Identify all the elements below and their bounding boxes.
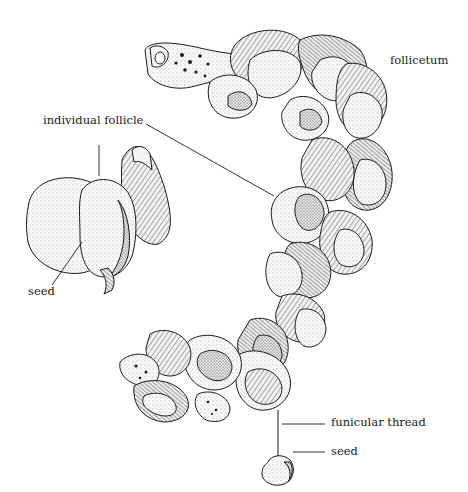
botanical-figure: follicetum individual follicle seed funi… [0, 0, 468, 492]
leader-individual-follicle-right [146, 124, 274, 196]
label-seed-left: seed [28, 286, 55, 298]
label-funicular-thread: funicular thread [331, 417, 426, 429]
label-follicetum: follicetum [390, 55, 448, 67]
label-seed-bottom: seed [331, 446, 358, 458]
individual-follicle [27, 146, 171, 294]
dangling-seed [262, 410, 293, 485]
label-individual-follicle: individual follicle [43, 115, 143, 127]
